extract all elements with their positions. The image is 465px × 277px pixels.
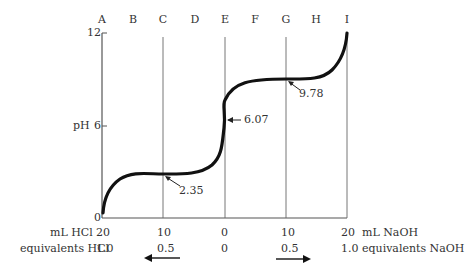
- annotation-2-35: 2.35: [179, 185, 204, 197]
- x-tick-eq-0: 0: [221, 243, 228, 255]
- x-label-ml-naoh: mL NaOH: [362, 227, 418, 239]
- x-tick-ml-20-left: 20: [96, 227, 110, 239]
- x-tick-eq-1-right: 1.0: [341, 243, 359, 255]
- x-tick-ml-10-right: 10: [281, 227, 295, 239]
- x-tick-ml-10-left: 10: [157, 227, 171, 239]
- x-tick-ml-20-right: 20: [341, 227, 355, 239]
- y-tick-label-6: 6: [94, 120, 101, 132]
- y-axis-label: pH: [73, 120, 90, 132]
- y-tick-label-0: 0: [94, 212, 101, 224]
- x-tick-eq-0-5-right: 0.5: [281, 243, 299, 255]
- x-label-ml-hcl: mL HCl: [50, 227, 93, 239]
- x-tick-eq-0-5-left: 0.5: [157, 243, 175, 255]
- y-tick-label-12: 12: [87, 27, 101, 39]
- x-label-eq-naoh: equivalents NaOH: [362, 243, 464, 255]
- x-tick-ml-0: 0: [221, 227, 228, 239]
- annotation-9-78: 9.78: [299, 88, 324, 100]
- annotation-6-07: 6.07: [244, 114, 269, 126]
- x-tick-eq-1-left: 1.0: [96, 243, 114, 255]
